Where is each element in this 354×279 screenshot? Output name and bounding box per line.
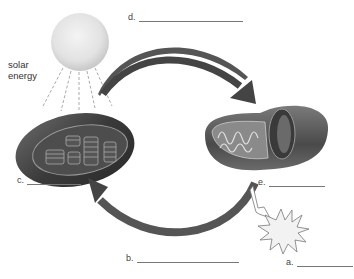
label-b: b. [126,253,239,263]
arrow-to-energy-burst-icon [250,186,270,218]
energy-burst-icon [258,209,309,254]
label-d-letter: d. [128,12,136,22]
arrow-chloroplast-to-mitochondrion-icon [98,48,256,104]
label-e: e. [258,177,325,187]
label-a-blank[interactable] [297,258,353,267]
solar-energy-text: solar energy [8,59,48,81]
label-d: d. [128,12,243,22]
label-e-blank[interactable] [269,178,325,187]
label-c: c. [17,175,81,185]
label-b-blank[interactable] [137,254,239,263]
label-a-letter: a. [286,257,294,267]
sun-icon [42,13,112,111]
label-c-letter: c. [17,175,24,185]
label-b-letter: b. [126,253,134,263]
label-e-letter: e. [258,177,266,187]
label-a: a. [286,257,353,267]
solar-energy-label: solar energy [8,59,48,81]
label-d-blank[interactable] [139,13,243,22]
label-c-blank[interactable] [27,176,81,185]
diagram-artwork [0,0,354,279]
arrow-mitochondrion-to-chloroplast-icon [88,178,255,232]
mitochondrion-icon [205,106,328,170]
